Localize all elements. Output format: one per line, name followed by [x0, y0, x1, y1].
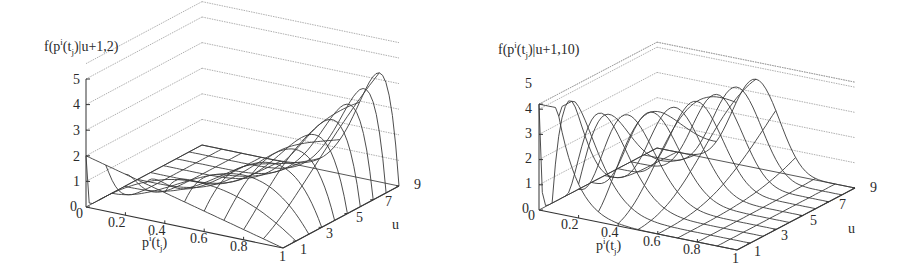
- p-tick-1: 1: [279, 250, 286, 264]
- x-axis-label: pi(tj): [142, 236, 167, 250]
- surface-plot-left: f(pi(tj)|u+1,2) 5 4 3 2 1 0 0 0.2 0.4 0.…: [0, 0, 457, 279]
- p-tick-1: 1: [732, 252, 739, 266]
- z-axis-label: f(pi(tj)|u+1,10): [498, 43, 579, 57]
- u-tick-3: 3: [781, 229, 788, 243]
- u-tick-5: 5: [810, 214, 817, 228]
- p-tick-0.6: 0.6: [190, 232, 208, 246]
- u-tick-1: 1: [754, 245, 761, 259]
- z-tick-4: 4: [73, 98, 80, 112]
- u-axis-label: u: [848, 222, 855, 236]
- u-tick-1: 1: [300, 243, 307, 257]
- p-tick-0.2: 0.2: [108, 216, 126, 230]
- z-tick-1: 1: [525, 177, 532, 191]
- z-axis-label: f(pi(tj)|u+1,2): [44, 40, 118, 54]
- x-axis-label: pi(tj): [596, 239, 621, 253]
- surface-plot-right: f(pi(tj)|u+1,10) 5 4 3 2 1 0 0 0.2 0.4 0…: [458, 0, 915, 279]
- z-tick-2: 2: [73, 150, 80, 164]
- p-tick-0.8: 0.8: [230, 240, 248, 254]
- u-tick-9: 9: [870, 181, 877, 195]
- u-tick-9: 9: [414, 178, 421, 192]
- p-tick-0: 0: [76, 207, 83, 221]
- z-tick-5: 5: [73, 73, 80, 87]
- p-tick-0.2: 0.2: [561, 218, 579, 232]
- u-axis-label: u: [392, 218, 399, 232]
- u-tick-5: 5: [356, 211, 363, 225]
- z-tick-5: 5: [525, 77, 532, 91]
- p-tick-0.8: 0.8: [683, 243, 701, 257]
- z-tick-1: 1: [73, 175, 80, 189]
- z-tick-3: 3: [73, 124, 80, 138]
- u-tick-7: 7: [385, 195, 392, 209]
- z-tick-4: 4: [525, 102, 532, 116]
- p-tick-0: 0: [528, 209, 535, 223]
- z-tick-2: 2: [525, 152, 532, 166]
- u-tick-7: 7: [839, 198, 846, 212]
- u-tick-3: 3: [326, 227, 333, 241]
- z-tick-3: 3: [525, 127, 532, 141]
- p-tick-0.6: 0.6: [643, 235, 661, 249]
